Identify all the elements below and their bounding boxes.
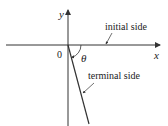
theta-label: θ (81, 52, 87, 64)
x-axis-label: x (153, 49, 159, 61)
origin-label: 0 (57, 49, 62, 60)
angle-diagram: y x 0 θ initial side terminal side (0, 0, 168, 126)
initial-side-label: initial side (105, 21, 148, 32)
y-axis-label: y (58, 8, 64, 20)
terminal-side-pointer (83, 83, 94, 93)
initial-side-pointer (106, 33, 112, 44)
terminal-side-label: terminal side (88, 70, 140, 81)
angle-arc (72, 45, 82, 58)
